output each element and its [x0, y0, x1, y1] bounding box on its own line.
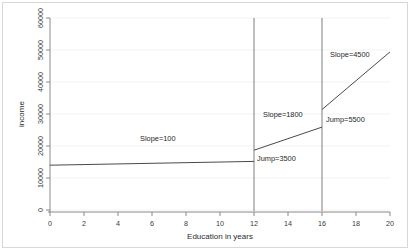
- x-tick-label-12: 12: [250, 219, 258, 228]
- x-tick-label-10: 10: [216, 219, 224, 228]
- x-tick-label-6: 6: [150, 219, 154, 228]
- y-tick-label-10000: 10000: [36, 168, 45, 188]
- y-tick-label-0: 0: [36, 208, 45, 212]
- annotation-jump-5500: Jump=5500: [326, 115, 365, 124]
- x-tick-label-0: 0: [48, 219, 52, 228]
- x-axis-ticks: [50, 212, 390, 216]
- figure-container: 0 10000 20000 30000 40000 50000 60000 in…: [0, 0, 412, 252]
- x-tick-label-16: 16: [318, 219, 326, 228]
- annotation-slope-1800: Slope=1800: [263, 110, 303, 119]
- annotation-slope-4500: Slope=4500: [330, 50, 370, 59]
- x-tick-label-4: 4: [116, 219, 120, 228]
- x-axis-tick-labels: 0 2 4 6 8 10 12 14 16 18 20: [48, 219, 394, 228]
- y-tick-label-60000: 60000: [36, 8, 45, 28]
- chart-canvas: 0 10000 20000 30000 40000 50000 60000 in…: [0, 0, 412, 252]
- y-tick-label-40000: 40000: [36, 72, 45, 92]
- x-tick-label-8: 8: [184, 219, 188, 228]
- x-tick-label-18: 18: [352, 219, 360, 228]
- annotation-jump-3500: Jump=3500: [257, 154, 296, 163]
- x-tick-label-20: 20: [386, 219, 394, 228]
- y-tick-label-50000: 50000: [36, 40, 45, 60]
- y-tick-label-20000: 20000: [36, 136, 45, 156]
- y-tick-label-30000: 30000: [36, 104, 45, 124]
- y-axis-tick-labels: 0 10000 20000 30000 40000 50000 60000: [36, 8, 45, 212]
- annotation-slope-100: Slope=100: [140, 134, 176, 143]
- x-tick-label-2: 2: [82, 219, 86, 228]
- x-tick-label-14: 14: [284, 219, 292, 228]
- y-axis-ticks: [46, 18, 50, 210]
- x-axis-title: Education in years: [187, 232, 253, 241]
- y-axis-title: income: [17, 101, 26, 127]
